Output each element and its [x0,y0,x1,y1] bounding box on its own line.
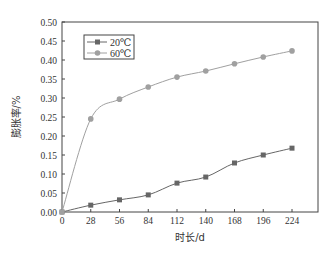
data-point-square [117,197,122,202]
y-tick-label: 0.20 [40,132,57,142]
x-tick-label: 196 [256,216,271,226]
x-tick-label: 112 [170,216,184,226]
data-point-square [175,181,180,186]
x-tick-label: 0 [60,216,65,226]
data-point-circle [59,209,65,215]
data-point-circle [117,96,123,102]
x-tick-label: 56 [115,216,125,226]
y-tick-label: 0.30 [40,94,57,104]
data-point-square [261,153,266,158]
data-point-circle [289,48,295,54]
data-point-circle [88,116,94,122]
legend-label: 20℃ [110,37,131,48]
line-chart: 0.000.050.100.150.200.250.300.350.400.45… [0,0,336,257]
legend: 20℃60℃ [84,35,134,59]
series-20℃ [60,146,295,215]
y-tick-label: 0.10 [40,170,57,180]
y-tick-label: 0.45 [40,37,57,47]
data-series [59,48,295,215]
x-tick-label: 168 [227,216,242,226]
data-point-circle [232,61,238,67]
data-point-circle [260,54,266,60]
data-point-square [146,192,151,197]
legend-marker-square [95,40,100,45]
x-axis-title: 时长/d [175,232,205,243]
y-tick-label: 0.05 [40,189,57,199]
x-tick-label: 84 [144,216,154,226]
y-tick-label: 0.25 [40,113,57,123]
y-tick-label: 0.35 [40,75,57,85]
data-point-square [290,146,295,151]
y-tick-label: 0.40 [40,56,57,66]
x-tick-label: 28 [86,216,96,226]
x-tick-label: 224 [285,216,300,226]
series-60℃ [59,48,295,215]
y-tick-label: 0.15 [40,151,57,161]
y-tick-label: 0.00 [40,208,57,218]
data-point-square [88,203,93,208]
data-point-circle [174,74,180,80]
data-point-square [203,175,208,180]
y-tick-label: 0.50 [40,18,57,28]
data-point-circle [203,68,209,74]
data-point-circle [145,84,151,90]
data-point-square [232,160,237,165]
legend-label: 60℃ [110,48,131,59]
legend-marker-circle [95,50,101,56]
y-axis-title: 膨胀率/% [10,96,22,139]
series-line [62,148,292,212]
y-axis-ticks: 0.000.050.100.150.200.250.300.350.400.45… [40,18,65,218]
x-tick-label: 140 [199,216,214,226]
